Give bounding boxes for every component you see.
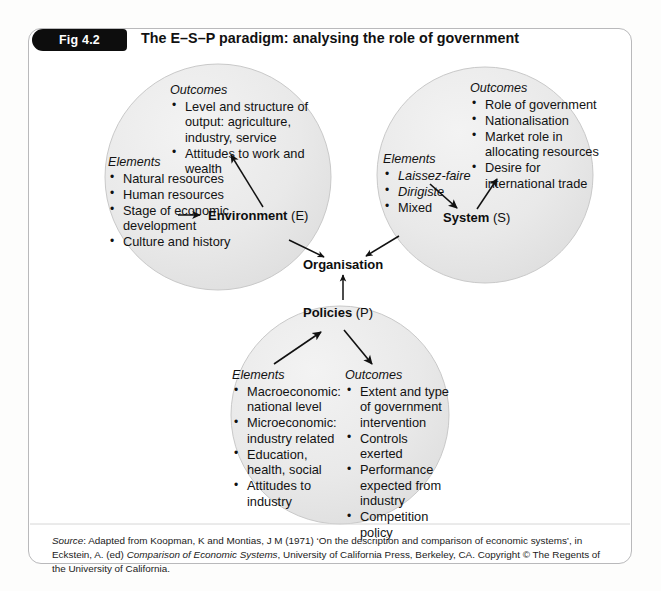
list-item: Desire for international trade bbox=[470, 160, 605, 191]
node-label-system-text: System bbox=[443, 210, 489, 225]
policies-outcomes-list: Extent and type of government interventi… bbox=[345, 384, 449, 541]
node-label-policies: Policies (P) bbox=[303, 305, 373, 320]
figure-badge: Fig 4.2 bbox=[32, 29, 127, 51]
environment-elements-heading: Elements bbox=[108, 155, 248, 171]
node-label-organisation-text: Organisation bbox=[303, 257, 383, 272]
list-item: Performance expected from industry bbox=[345, 462, 449, 509]
list-item: Dirigiste bbox=[383, 184, 481, 200]
policies-elements-list: Macroeconomic: national level Microecono… bbox=[232, 384, 342, 510]
node-label-environment: Environment (E) bbox=[208, 208, 308, 223]
system-outcomes-block: Outcomes Role of government Nationalisat… bbox=[470, 81, 605, 192]
system-elements-heading: Elements bbox=[383, 152, 481, 168]
list-item: Market role in allocating resources bbox=[470, 129, 605, 160]
figure-badge-label: Fig 4.2 bbox=[59, 33, 100, 47]
list-item: Nationalisation bbox=[470, 113, 605, 129]
list-item: Culture and history bbox=[108, 234, 248, 250]
list-item: Human resources bbox=[108, 187, 248, 203]
list-item: Role of government bbox=[470, 97, 605, 113]
system-elements-block: Elements Laissez-faire Dirigiste Mixed bbox=[383, 152, 481, 216]
source-label: Source bbox=[52, 535, 83, 546]
source-note: Source: Adapted from Koopman, K and Mont… bbox=[52, 534, 612, 576]
node-label-environment-suffix: (E) bbox=[291, 208, 308, 223]
node-label-system-suffix: (S) bbox=[493, 210, 510, 225]
policies-elements-block: Elements Macroeconomic: national level M… bbox=[232, 368, 342, 510]
system-outcomes-heading: Outcomes bbox=[470, 81, 605, 97]
environment-outcomes-heading: Outcomes bbox=[170, 83, 330, 99]
environment-elements-block: Elements Natural resources Human resourc… bbox=[108, 155, 248, 250]
system-elements-list: Laissez-faire Dirigiste Mixed bbox=[383, 168, 481, 216]
list-item: Natural resources bbox=[108, 171, 248, 187]
list-item: Attitudes to industry bbox=[232, 478, 342, 509]
system-outcomes-list: Role of government Nationalisation Marke… bbox=[470, 97, 605, 192]
node-label-policies-text: Policies bbox=[303, 305, 352, 320]
list-item: Level and structure of output: agricultu… bbox=[170, 99, 330, 146]
arrow-system-to-organisation bbox=[366, 236, 399, 256]
policies-outcomes-block: Outcomes Extent and type of government i… bbox=[345, 368, 449, 541]
node-label-policies-suffix: (P) bbox=[356, 305, 373, 320]
policies-outcomes-heading: Outcomes bbox=[345, 368, 449, 384]
list-item: Extent and type of government interventi… bbox=[345, 384, 449, 431]
node-label-environment-text: Environment bbox=[208, 208, 287, 223]
list-item: Education, health, social bbox=[232, 447, 342, 478]
source-title: Comparison of Economic Systems bbox=[127, 549, 278, 560]
list-item: Macroeconomic: national level bbox=[232, 384, 342, 415]
policies-elements-heading: Elements bbox=[232, 368, 342, 384]
list-item: Laissez-faire bbox=[383, 168, 481, 184]
node-label-system: System (S) bbox=[443, 210, 510, 225]
list-item: Controls exerted bbox=[345, 431, 449, 462]
node-label-organisation: Organisation bbox=[303, 257, 383, 272]
list-item: Microeconomic: industry related bbox=[232, 415, 342, 446]
